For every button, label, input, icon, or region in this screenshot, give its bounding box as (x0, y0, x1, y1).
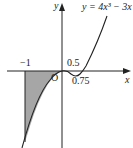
x-axis-label: x (125, 75, 129, 85)
y-axis-label: y (54, 1, 58, 11)
tick-label-0-75: 0.75 (72, 76, 90, 86)
y-axis-arrow-icon (59, 3, 65, 11)
tick-label-0-5: 0.5 (67, 58, 80, 68)
origin-label: O (51, 73, 58, 83)
equation-label: y = 4x³ − 3x (82, 2, 132, 12)
graph-canvas (0, 0, 133, 148)
tick-label-minus-one: −1 (20, 58, 31, 68)
